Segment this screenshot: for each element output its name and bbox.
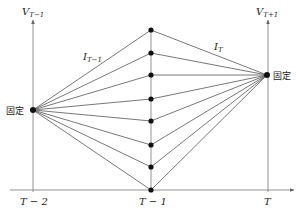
tick-t: T <box>264 196 272 207</box>
right-path-line <box>151 75 267 121</box>
right-path-line <box>151 75 267 145</box>
right-path-line <box>151 75 267 190</box>
right-path-line <box>151 75 267 167</box>
state-dot <box>148 187 153 192</box>
right-fixed-label: 固定 <box>273 70 291 81</box>
left-fixed-label: 固定 <box>6 105 24 116</box>
right-path-line <box>151 53 267 75</box>
left-axis-label: VT−1 <box>22 6 44 19</box>
tick-t-minus-1: T − 1 <box>139 196 167 207</box>
state-dot <box>148 50 153 55</box>
state-dot <box>148 164 153 169</box>
right-path-line <box>151 75 267 99</box>
state-dot <box>148 118 153 123</box>
interval-right-label: IT <box>213 41 224 54</box>
right-axis-label: VT+1 <box>256 6 278 19</box>
state-dot <box>148 72 153 77</box>
left-path-line <box>33 110 151 167</box>
interval-left-label: IT−1 <box>82 51 102 64</box>
state-dot <box>148 142 153 147</box>
voltage-diagram: VT−1 VT+1 IT−1 IT 固定 固定 T − 2 T − 1 T <box>0 0 299 212</box>
left-path-line <box>33 30 151 110</box>
left-fixed-point <box>30 107 36 113</box>
state-dot <box>148 96 153 101</box>
right-fixed-point <box>264 72 270 78</box>
right-path-line <box>151 30 267 75</box>
left-path-line <box>33 110 151 190</box>
tick-t-minus-2: T − 2 <box>20 196 48 207</box>
state-dot <box>148 27 153 32</box>
